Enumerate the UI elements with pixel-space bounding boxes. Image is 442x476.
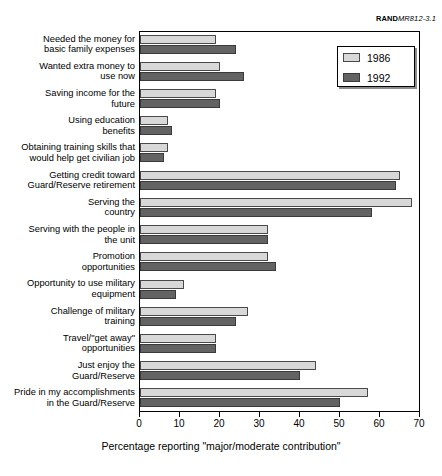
- bar-1986: [140, 89, 216, 98]
- category-label: Promotionopportunities: [4, 251, 135, 272]
- chart-category-row: Obtaining training skills thatwould help…: [0, 140, 442, 167]
- bar-1992: [140, 344, 216, 353]
- chart-category-row: Getting credit towardGuard/Reserve retir…: [0, 167, 442, 194]
- axis-tick-label: 60: [373, 418, 384, 429]
- legend-swatch-1992: [343, 73, 360, 82]
- category-label-line: the unit: [4, 235, 135, 246]
- category-label-line: Saving income for the: [4, 88, 135, 99]
- category-bar-group: [140, 89, 420, 109]
- category-label-line: Serving the: [4, 197, 135, 208]
- bar-1992: [140, 153, 164, 162]
- legend-item: 1992: [343, 68, 414, 87]
- category-bar-group: [140, 252, 420, 272]
- legend-swatch-1986: [343, 53, 360, 62]
- category-label: Serving thecountry: [4, 197, 135, 218]
- x-axis-title: Percentage reporting "major/moderate con…: [0, 440, 442, 452]
- rand-document-id: RANDMR812-3.1: [376, 14, 436, 23]
- category-label: Pride in my accomplishmentsin the Guard/…: [4, 387, 135, 408]
- category-bar-group: [140, 334, 420, 354]
- bar-1992: [140, 72, 244, 81]
- bar-rows-container: Needed the money forbasic family expense…: [0, 31, 442, 412]
- category-label: Just enjoy theGuard/Reserve: [4, 360, 135, 381]
- category-label-line: training: [4, 316, 135, 327]
- axis-tick-label: 50: [333, 418, 344, 429]
- category-label: Travel/"get away"opportunities: [4, 333, 135, 354]
- axis-tick-label: 20: [213, 418, 224, 429]
- category-label-line: Needed the money for: [4, 34, 135, 45]
- legend-label: 1986: [367, 52, 390, 64]
- category-label: Needed the money forbasic family expense…: [4, 34, 135, 55]
- category-label-line: use now: [4, 71, 135, 82]
- legend-item: 1986: [343, 48, 414, 67]
- category-label-line: Pride in my accomplishments: [4, 387, 135, 398]
- bar-1986: [140, 198, 412, 207]
- category-bar-group: [140, 171, 420, 191]
- bar-1986: [140, 62, 220, 71]
- rand-logo-text: RAND: [376, 14, 398, 23]
- chart-category-row: Using educationbenefits: [0, 113, 442, 140]
- category-label-line: Serving with the people in: [4, 224, 135, 235]
- category-label-line: in the Guard/Reserve: [4, 398, 135, 409]
- bar-1986: [140, 171, 400, 180]
- category-label-line: Promotion: [4, 251, 135, 262]
- legend-label: 1992: [367, 72, 390, 84]
- category-label-line: Opportunity to use military: [4, 278, 135, 289]
- bar-1992: [140, 235, 268, 244]
- bar-1992: [140, 181, 396, 190]
- category-bar-group: [140, 143, 420, 163]
- axis-tick-label: 30: [253, 418, 264, 429]
- bar-1986: [140, 388, 368, 397]
- category-label: Serving with the people inthe unit: [4, 224, 135, 245]
- category-label: Challenge of militarytraining: [4, 306, 135, 327]
- axis-tick-label: 40: [293, 418, 304, 429]
- category-label-line: benefits: [4, 126, 135, 137]
- category-label-line: Wanted extra money to: [4, 61, 135, 72]
- category-label-line: future: [4, 99, 135, 110]
- chart-category-row: Pride in my accomplishmentsin the Guard/…: [0, 385, 442, 412]
- chart-category-row: Saving income for thefuture: [0, 85, 442, 112]
- bar-1992: [140, 371, 300, 380]
- x-axis-tick-labels: 010203040506070: [0, 418, 442, 432]
- category-label: Using educationbenefits: [4, 115, 135, 136]
- axis-tick: [219, 412, 220, 417]
- bar-1992: [140, 99, 220, 108]
- bar-1992: [140, 290, 176, 299]
- category-label-line: Using education: [4, 115, 135, 126]
- axis-tick: [179, 412, 180, 417]
- category-label-line: equipment: [4, 289, 135, 300]
- bar-1992: [140, 45, 236, 54]
- bar-1986: [140, 334, 216, 343]
- category-bar-group: [140, 198, 420, 218]
- axis-tick: [139, 412, 140, 417]
- axis-tick: [299, 412, 300, 417]
- category-label: Obtaining training skills thatwould help…: [4, 142, 135, 163]
- bar-1986: [140, 116, 168, 125]
- category-label-line: country: [4, 207, 135, 218]
- chart-category-row: Serving with the people inthe unit: [0, 222, 442, 249]
- axis-tick-label: 0: [136, 418, 142, 429]
- bar-1992: [140, 126, 172, 135]
- axis-tick-label: 70: [413, 418, 424, 429]
- category-label: Saving income for thefuture: [4, 88, 135, 109]
- axis-tick: [419, 412, 420, 417]
- bar-1986: [140, 280, 184, 289]
- axis-tick: [379, 412, 380, 417]
- category-bar-group: [140, 225, 420, 245]
- chart-category-row: Travel/"get away"opportunities: [0, 330, 442, 357]
- bar-1986: [140, 35, 216, 44]
- figure-chart: RANDMR812-3.1 Needed the money forbasic …: [0, 0, 442, 476]
- category-label: Getting credit towardGuard/Reserve retir…: [4, 170, 135, 191]
- rand-id-number: MR812-3.1: [398, 14, 436, 23]
- bar-1986: [140, 225, 268, 234]
- bar-1986: [140, 252, 268, 261]
- axis-tick: [259, 412, 260, 417]
- chart-category-row: Promotionopportunities: [0, 249, 442, 276]
- category-label-line: Travel/"get away": [4, 333, 135, 344]
- category-label-line: Guard/Reserve retirement: [4, 180, 135, 191]
- category-label-line: opportunities: [4, 343, 135, 354]
- axis-tick: [339, 412, 340, 417]
- chart-category-row: Just enjoy theGuard/Reserve: [0, 358, 442, 385]
- bar-1992: [140, 262, 276, 271]
- category-label-line: would help get civilian job: [4, 153, 135, 164]
- bar-1992: [140, 208, 372, 217]
